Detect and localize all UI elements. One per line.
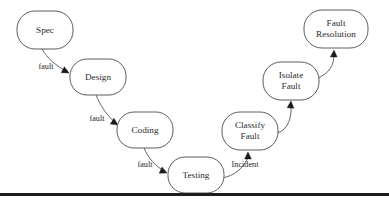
node-fault-resolution-label-line1: Fault <box>327 18 346 28</box>
node-fault-resolution[interactable]: Fault Resolution <box>304 10 368 48</box>
diagram-canvas: fault fault fault Incident Spec Design C… <box>0 0 389 203</box>
edge-label-incident: Incident <box>232 160 260 169</box>
arrowhead-icon-isolate-resolution <box>330 50 337 57</box>
arrowhead-icon-classify-isolate <box>287 101 294 108</box>
edge-classify-fault-to-isolate-fault <box>277 104 291 133</box>
arrowhead-icon-testing-classify <box>245 152 252 159</box>
node-testing-label: Testing <box>183 170 210 180</box>
node-fault-resolution-label-line2: Resolution <box>316 29 356 39</box>
node-testing[interactable]: Testing <box>168 157 224 193</box>
node-design[interactable]: Design <box>70 59 126 95</box>
footer-divider <box>0 193 389 196</box>
node-coding[interactable]: Coding <box>117 112 173 148</box>
node-spec-label: Spec <box>36 25 54 35</box>
node-isolate-fault[interactable]: Isolate Fault <box>263 62 319 100</box>
node-classify-fault-label-line1: Classify <box>235 120 266 130</box>
node-coding-label: Coding <box>131 125 158 135</box>
node-isolate-fault-label-line1: Isolate <box>279 70 304 80</box>
node-spec[interactable]: Spec <box>17 11 73 49</box>
edge-label-fault-3: fault <box>137 160 153 169</box>
edge-label-fault-2: fault <box>89 114 105 123</box>
node-classify-fault[interactable]: Classify Fault <box>222 112 278 150</box>
edge-label-fault-1: fault <box>38 62 54 71</box>
node-layer: Spec Design Coding Testing Classify Faul… <box>17 10 368 193</box>
flowchart-svg: fault fault fault Incident Spec Design C… <box>0 0 389 203</box>
edge-isolate-fault-to-fault-resolution <box>318 54 334 78</box>
node-isolate-fault-label-line2: Fault <box>282 81 301 91</box>
node-classify-fault-label-line2: Fault <box>241 131 260 141</box>
node-design-label: Design <box>85 72 111 82</box>
arrowhead-icon-spec-design <box>61 67 70 76</box>
